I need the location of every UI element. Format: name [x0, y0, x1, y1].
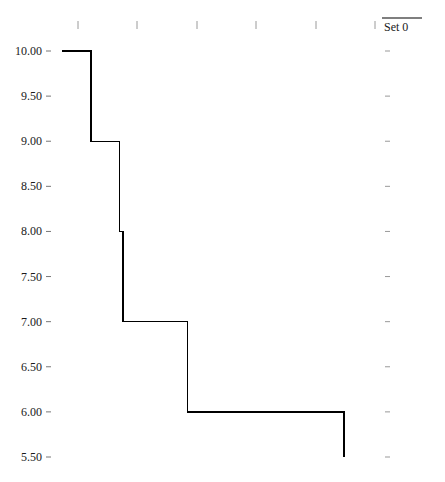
step-line	[62, 51, 344, 457]
y-tick-label: 7.50	[21, 270, 42, 284]
legend-label-set-0: Set 0	[384, 20, 408, 34]
legend: Set 0	[382, 18, 422, 34]
y-axis-labels: 10.009.509.008.508.007.507.006.506.005.5…	[15, 44, 42, 464]
y-axis-left-ticks	[46, 51, 51, 457]
y-tick-label: 8.00	[21, 224, 42, 238]
y-tick-label: 8.50	[21, 179, 42, 193]
y-tick-label: 9.50	[21, 89, 42, 103]
y-tick-label: 9.00	[21, 134, 42, 148]
x-axis-top-ticks	[78, 21, 375, 29]
chart-canvas: 10.009.509.008.508.007.507.006.506.005.5…	[0, 0, 445, 482]
y-tick-label: 6.00	[21, 405, 42, 419]
series-set-0	[62, 51, 344, 457]
y-axis-right-ticks	[385, 51, 390, 457]
y-tick-label: 6.50	[21, 360, 42, 374]
step-chart: 10.009.509.008.508.007.507.006.506.005.5…	[0, 0, 445, 482]
y-tick-label: 10.00	[15, 44, 42, 58]
y-tick-label: 7.00	[21, 315, 42, 329]
y-tick-label: 5.50	[21, 450, 42, 464]
